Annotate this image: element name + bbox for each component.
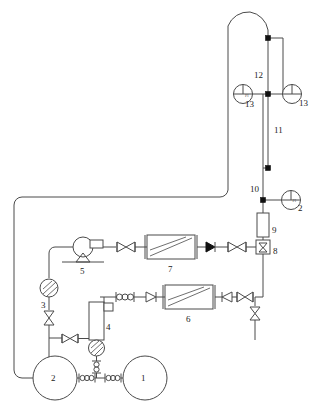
check-valve-6b	[222, 292, 232, 302]
gate-valve-7b	[228, 242, 246, 252]
gate-valve-tank2-right	[70, 334, 78, 343]
process-flow-diagram: PI 13 13 PI 2 12 11 10 9 8	[0, 0, 315, 401]
check-valve-6a	[146, 292, 156, 302]
gate-valve-7b-right	[237, 242, 246, 252]
return-line-to-tank-2	[14, 60, 228, 378]
meter-4-lower	[89, 340, 105, 356]
label-line-12: 12	[254, 70, 263, 80]
gauge-2-label: 2	[298, 203, 303, 213]
check-valve-7	[206, 242, 215, 252]
pump-5-motor	[90, 240, 103, 248]
valve-8-label: 8	[273, 246, 278, 256]
gate-valve-7a-left	[117, 242, 126, 252]
label-line-10: 10	[250, 184, 260, 194]
gauge-13-right: 13	[283, 85, 309, 109]
vessel-4-nozzle	[104, 303, 113, 311]
flex-connector-vertical-coil-2	[94, 367, 99, 372]
check-valve-6a-body	[146, 292, 156, 302]
flex-connector-6	[116, 292, 134, 302]
heat-exchanger-7-label: 7	[168, 264, 173, 274]
gate-valve-tank2-left	[62, 334, 70, 343]
gate-valve-7a	[117, 242, 135, 252]
gauge-13-right-label: 13	[299, 98, 309, 108]
filter-9-body	[257, 213, 269, 237]
flex-connector-bottom-right	[105, 374, 121, 383]
vessel-4: 4	[89, 297, 113, 340]
filter-9: 9	[257, 213, 277, 237]
heat-exchanger-6: 6	[163, 285, 215, 324]
junction-node-top	[265, 35, 270, 40]
tank-2: 2	[33, 356, 77, 400]
pump-5: 5	[55, 237, 104, 276]
check-valve-6b-body	[222, 292, 232, 302]
drain-globe-valve-lower	[250, 314, 260, 321]
heat-exchanger-7: 7	[145, 235, 197, 274]
tank-2-label: 2	[51, 373, 56, 383]
globe-valve-3-upper	[44, 311, 54, 318]
label-line-11: 11	[274, 125, 283, 135]
gate-valve-7b-left	[228, 242, 237, 252]
flex-connector-vertical-coil-1	[94, 362, 99, 367]
gate-valve-6-right	[245, 292, 253, 302]
tank-1-label: 1	[141, 373, 146, 383]
drain-globe-valve	[250, 307, 260, 320]
tank-1: 1	[123, 356, 167, 400]
vessel-4-body	[89, 302, 104, 340]
junction-node-13	[265, 91, 270, 96]
globe-valve-3	[44, 311, 54, 325]
flex-connector-vertical	[92, 361, 101, 373]
pump-5-label: 5	[80, 266, 85, 276]
heat-exchanger-6-label: 6	[186, 314, 191, 324]
drain-globe-valve-upper	[250, 307, 260, 314]
gauge-13-left-label: 13	[245, 99, 255, 109]
gate-valve-7a-right	[126, 242, 135, 252]
top-pipe-bend	[228, 12, 268, 60]
junction-node-11	[265, 165, 270, 170]
gauge-2-right: PI 2	[282, 191, 303, 214]
filter-9-label: 9	[272, 225, 277, 235]
gauge-13-left: PI 13	[234, 85, 255, 110]
gate-valve-6	[237, 292, 253, 302]
meter-3-label: 3	[41, 300, 46, 310]
check-valve-7-body	[206, 242, 215, 252]
vessel-4-label: 4	[106, 322, 111, 332]
gate-valve-6-left	[237, 292, 245, 302]
pipe-meter3-to-pump	[49, 247, 55, 278]
flex-connector-bottom-left	[79, 374, 95, 383]
junction-node-10	[260, 197, 265, 202]
valve-8: 8	[246, 240, 278, 256]
gate-valve-tank2	[62, 334, 78, 343]
globe-valve-3-lower	[44, 318, 54, 325]
